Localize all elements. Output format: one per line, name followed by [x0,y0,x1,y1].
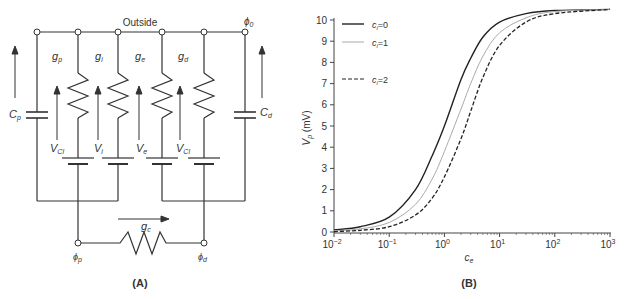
y-ticks: 012345678910 [316,15,334,238]
x-tick-label: 103 [600,238,615,250]
cd-label: Cd [260,106,273,119]
vcl-left-label: VCl [50,142,64,155]
vi-label: Vi [94,142,103,155]
outside-label: Outside [123,17,158,28]
vcl-right-label: VCl [176,142,190,155]
chart-legend: ci=0 ci=1 ci=2 [342,20,388,86]
y-tick-label: 0 [321,227,327,238]
legend-ci0: ci=0 [372,20,388,31]
gi-label: gi [95,50,103,63]
ve-label: Ve [136,142,147,155]
x-tick-label: 10−2 [322,238,341,250]
x-tick-label: 100 [435,238,450,250]
y-tick-label: 2 [321,184,327,195]
x-axis-label: ce [465,252,474,264]
x-tick-label: 10−1 [378,238,397,250]
chart-axes [334,18,611,233]
y-tick-label: 6 [321,99,327,110]
y-tick-label: 1 [321,205,327,216]
legend-ci1: ci=1 [372,38,388,49]
phi0-label: ϕ0 [244,16,254,28]
x-ticks: 10−210−1100101102103 [322,233,615,250]
panel-b-label: (B) [461,277,477,289]
y-tick-label: 8 [321,57,327,68]
phid-label: ϕd [198,252,208,263]
cp-label: Cp [9,108,21,122]
y-tick-label: 4 [321,142,327,153]
y-tick-label: 7 [321,78,327,89]
x-tick-label: 101 [490,238,505,250]
y-tick-label: 10 [316,15,328,26]
gp-label: gp [52,50,62,64]
y-axis-label: Vp (mV) [301,110,314,145]
panel-a-label: (A) [132,277,148,289]
legend-ci2: ci=2 [372,75,388,86]
x-tick-label: 102 [545,238,560,250]
y-tick-label: 9 [321,36,327,47]
y-tick-label: 3 [321,163,327,174]
voltage-arrows [12,46,265,222]
y-tick-label: 5 [321,121,327,132]
figure: Outside ϕ0 gp gi ge gd VCl Vi Ve VCl Cp … [0,0,632,299]
gd-label: gd [178,50,189,63]
ge-label: ge [135,50,145,63]
gc-label: gc [141,220,151,233]
phip-label: ϕp [73,252,82,264]
